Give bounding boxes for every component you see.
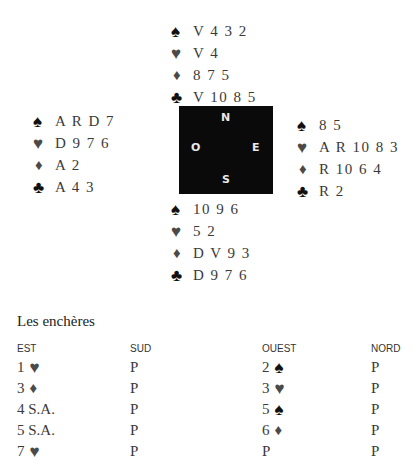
west-hearts-cards: D 9 7 6 (55, 135, 110, 152)
spade-icon: ♠ (171, 23, 193, 40)
north-hearts: ♥V 4 (171, 42, 257, 64)
bid-row: 7♥PPP (17, 441, 411, 462)
bid-cell: P (371, 380, 411, 397)
north-spades-cards: V 4 3 2 (193, 23, 248, 40)
club-icon: ♣ (171, 267, 193, 284)
west-clubs-cards: A 4 3 (55, 179, 95, 196)
bid-cell: 2♠ (262, 359, 371, 376)
west-spades: ♠A R D 7 (33, 110, 115, 132)
bid-level: P (130, 380, 138, 397)
header-sud: SUD (130, 343, 262, 354)
bid-level: P (371, 401, 379, 418)
bid-level: P (130, 401, 138, 418)
hand-west: ♠A R D 7 ♥D 9 7 6 ♦A 2 ♣A 4 3 (33, 110, 115, 198)
bid-level: 3 (17, 380, 25, 397)
bid-cell: 5 S.A. (17, 422, 130, 439)
bid-cell: P (371, 359, 411, 376)
bidding-header-row: EST SUD OUEST NORD (17, 339, 411, 357)
bid-cell: P (262, 443, 371, 460)
heart-icon: ♥ (297, 139, 319, 156)
heart-icon: ♥ (33, 135, 55, 152)
west-spades-cards: A R D 7 (55, 113, 115, 130)
compass-south: S (222, 173, 230, 186)
bid-cell: 3♥ (262, 380, 371, 397)
heart-icon: ♥ (171, 223, 193, 240)
header-est: EST (17, 343, 130, 354)
bidding-rows: 1♥P2♠P3♦P3♥P4 S.A.P5♠P5 S.A.P6♦P7♥PPP (17, 357, 411, 462)
south-diamonds-cards: D V 9 3 (193, 245, 251, 262)
west-clubs: ♣A 4 3 (33, 176, 115, 198)
compass-north: N (221, 111, 230, 124)
spade-icon: ♠ (275, 401, 284, 418)
west-hearts: ♥D 9 7 6 (33, 132, 115, 154)
spade-icon: ♠ (297, 117, 319, 134)
north-hearts-cards: V 4 (193, 45, 219, 62)
hand-south: ♠10 9 6 ♥5 2 ♦D V 9 3 ♣D 9 7 6 (171, 198, 251, 286)
bid-level: P (262, 443, 270, 460)
bid-cell: P (371, 401, 411, 418)
bid-cell: 1♥ (17, 359, 130, 376)
spade-icon: ♠ (33, 113, 55, 130)
bid-cell: P (371, 443, 411, 460)
bidding-table: EST SUD OUEST NORD 1♥P2♠P3♦P3♥P4 S.A.P5♠… (17, 339, 411, 462)
bid-level: 6 (262, 422, 270, 439)
bid-level: P (130, 422, 138, 439)
bid-cell: P (130, 359, 262, 376)
east-diamonds-cards: R 10 6 4 (319, 161, 382, 178)
compass-west: O (191, 141, 200, 154)
bid-level: 5 (262, 401, 270, 418)
hand-north: ♠V 4 3 2 ♥V 4 ♦8 7 5 ♣V 10 8 5 (171, 20, 257, 108)
bid-row: 5 S.A.P6♦P (17, 420, 411, 441)
bid-level: P (371, 422, 379, 439)
diamond-icon: ♦ (275, 423, 283, 438)
south-clubs-cards: D 9 7 6 (193, 267, 248, 284)
bid-cell: 6♦ (262, 422, 371, 439)
north-clubs-cards: V 10 8 5 (193, 89, 257, 106)
bid-cell: P (130, 380, 262, 397)
bid-level: 2 (262, 359, 270, 376)
bid-cell: 3♦ (17, 380, 130, 397)
east-hearts-cards: A R 10 8 3 (319, 139, 399, 156)
bid-row: 4 S.A.P5♠P (17, 399, 411, 420)
north-diamonds-cards: 8 7 5 (193, 67, 231, 84)
bid-level: P (130, 443, 138, 460)
bid-cell: P (130, 401, 262, 418)
west-diamonds: ♦A 2 (33, 154, 115, 176)
bid-cell: P (130, 422, 262, 439)
heart-icon: ♥ (30, 359, 40, 376)
bid-level: 4 S.A. (17, 401, 55, 418)
south-clubs: ♣D 9 7 6 (171, 264, 251, 286)
bid-cell: 7♥ (17, 443, 130, 460)
club-icon: ♣ (171, 89, 193, 106)
bid-cell: P (371, 422, 411, 439)
diamond-icon: ♦ (33, 158, 55, 173)
east-spades-cards: 8 5 (319, 117, 342, 134)
east-spades: ♠8 5 (297, 114, 399, 136)
bid-level: 1 (17, 359, 25, 376)
heart-icon: ♥ (30, 443, 40, 460)
bid-row: 3♦P3♥P (17, 378, 411, 399)
heart-icon: ♥ (275, 380, 285, 397)
bid-level: P (130, 359, 138, 376)
compass-east: E (252, 141, 260, 154)
bid-cell: 5♠ (262, 401, 371, 418)
bid-level: 7 (17, 443, 25, 460)
south-hearts-cards: 5 2 (193, 223, 216, 240)
spade-icon: ♠ (275, 359, 284, 376)
south-spades: ♠10 9 6 (171, 198, 251, 220)
bid-level: P (371, 443, 379, 460)
north-clubs: ♣V 10 8 5 (171, 86, 257, 108)
club-icon: ♣ (33, 179, 55, 196)
south-diamonds: ♦D V 9 3 (171, 242, 251, 264)
bid-cell: P (130, 443, 262, 460)
bid-row: 1♥P2♠P (17, 357, 411, 378)
club-icon: ♣ (297, 183, 319, 200)
diamond-icon: ♦ (297, 162, 319, 177)
bid-level: 5 S.A. (17, 422, 55, 439)
east-hearts: ♥A R 10 8 3 (297, 136, 399, 158)
east-clubs-cards: R 2 (319, 183, 345, 200)
spade-icon: ♠ (171, 201, 193, 218)
bid-level: P (371, 359, 379, 376)
heart-icon: ♥ (171, 45, 193, 62)
east-diamonds: ♦R 10 6 4 (297, 158, 399, 180)
